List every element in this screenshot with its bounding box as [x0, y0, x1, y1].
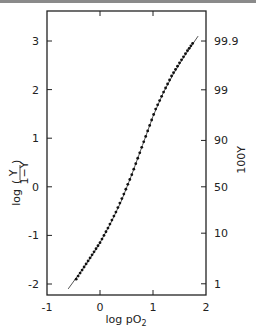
data-point [115, 211, 118, 214]
y-tick-label: -2 [28, 278, 39, 291]
data-point [138, 151, 141, 154]
data-point [130, 173, 133, 176]
data-point [186, 49, 189, 52]
right-tick-label: 10 [214, 227, 228, 240]
plot-frame [47, 11, 206, 295]
fit-curve [68, 36, 198, 289]
data-point [148, 124, 151, 127]
data-point [83, 266, 86, 269]
x-tick-label: -1 [42, 301, 53, 314]
data-point [164, 87, 167, 90]
y-axis-label-right: 100Y [235, 146, 248, 174]
right-tick-label: 1 [214, 278, 221, 291]
data-point [172, 71, 175, 74]
right-tick-label: 50 [214, 181, 228, 194]
data-point [162, 91, 165, 94]
data-point [75, 278, 78, 281]
data-point [103, 234, 106, 237]
data-point [95, 247, 98, 250]
data-point [101, 238, 104, 241]
data-point [109, 223, 112, 226]
y-tick-label: -1 [28, 229, 39, 242]
y-axis-label-left: log ( Y 1−Y ) [7, 160, 31, 206]
data-point [180, 58, 183, 61]
data-point [191, 42, 194, 45]
data-point [136, 157, 139, 160]
data-point [144, 135, 147, 138]
data-point [176, 65, 179, 68]
data-point [174, 68, 177, 71]
data-point [99, 241, 102, 244]
data-point [152, 113, 155, 116]
data-point [85, 263, 88, 266]
data-point [146, 130, 149, 133]
data-point [93, 250, 96, 253]
data-point [188, 47, 191, 50]
data-point [126, 183, 129, 186]
data-point [124, 188, 127, 191]
right-tick-label: 90 [214, 134, 228, 147]
data-point [77, 275, 80, 278]
data-point [189, 44, 192, 47]
right-tick-label: 99 [214, 84, 228, 97]
data-series [68, 36, 198, 289]
data-point [107, 227, 110, 230]
data-point [134, 162, 137, 165]
x-tick-label: 2 [203, 301, 210, 314]
data-point [158, 99, 161, 102]
data-point [113, 215, 116, 218]
y-axis-ticks: -2-10123 [28, 35, 52, 291]
data-point [132, 168, 135, 171]
right-tick-label: 99.9 [214, 35, 239, 48]
data-point [128, 178, 131, 181]
y-tick-label: 1 [32, 132, 39, 145]
hill-plot: -1012 -2-10123 11050909999.9 log pO2 log… [0, 0, 256, 333]
y-tick-label: 3 [32, 35, 39, 48]
svg-text:log: log [10, 189, 23, 206]
data-point [91, 253, 94, 256]
data-point [122, 193, 125, 196]
y-tick-label: 2 [32, 84, 39, 97]
data-point [97, 244, 100, 247]
data-point [116, 206, 119, 209]
y-tick-label: 0 [32, 181, 39, 194]
x-tick-label: 0 [97, 301, 104, 314]
data-point [178, 61, 181, 64]
data-point [170, 75, 173, 78]
x-axis-label: log pO2 [106, 313, 147, 328]
data-point [156, 103, 159, 106]
data-point [160, 95, 163, 98]
data-point [182, 55, 185, 58]
data-point [140, 146, 143, 149]
data-point [184, 52, 187, 55]
data-point [120, 197, 123, 200]
data-point [89, 256, 92, 259]
data-point [150, 119, 153, 122]
data-point [168, 79, 171, 82]
data-point [111, 219, 114, 222]
data-point [81, 269, 84, 272]
svg-text:): ) [10, 160, 23, 164]
data-point [79, 272, 82, 275]
data-point [154, 108, 157, 111]
data-point [105, 230, 108, 233]
data-point [118, 202, 121, 205]
data-point [87, 260, 90, 263]
x-tick-label: 1 [150, 301, 157, 314]
data-point [142, 140, 145, 143]
data-point [166, 83, 169, 86]
